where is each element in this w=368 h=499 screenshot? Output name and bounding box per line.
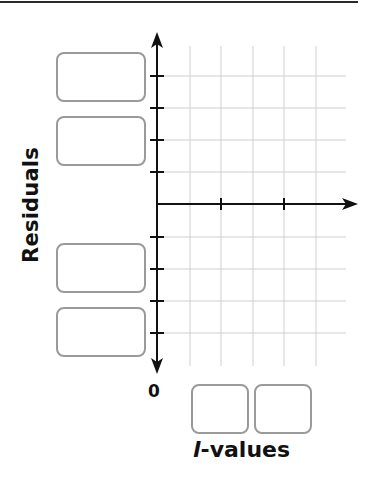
- y-axis: [150, 42, 164, 362]
- y-label-box-lower-2[interactable]: [56, 307, 146, 357]
- y-label-box-upper-1[interactable]: [56, 52, 146, 102]
- x-label-box-2[interactable]: [254, 384, 312, 434]
- y-label-box-lower-1[interactable]: [56, 243, 146, 293]
- x-axis-label: l-values: [193, 437, 290, 462]
- x-label-box-1[interactable]: [191, 384, 249, 434]
- y-label-box-upper-2[interactable]: [56, 116, 146, 166]
- y-axis-label: Residuals: [19, 147, 43, 263]
- x-axis-label-italic: l: [193, 437, 201, 462]
- origin-label: 0: [148, 381, 160, 401]
- grid: [157, 46, 346, 366]
- x-axis-label-rest: -values: [201, 437, 291, 462]
